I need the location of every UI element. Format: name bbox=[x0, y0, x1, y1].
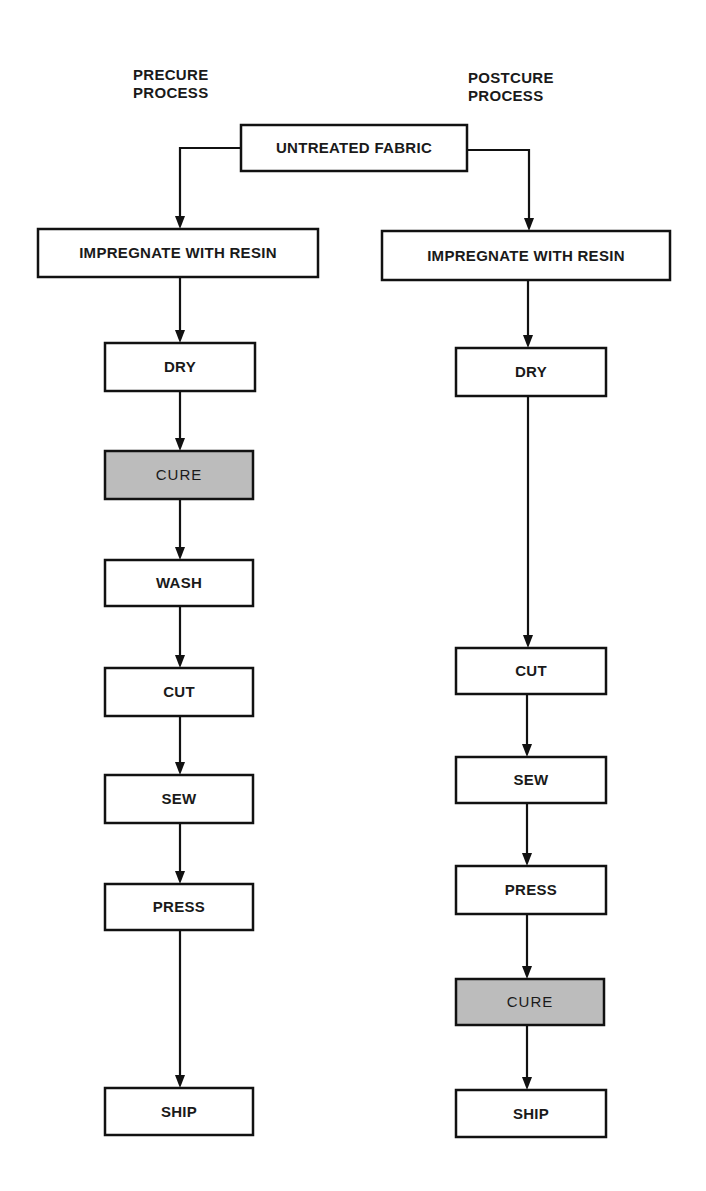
connector-r_dry-to-r_cut bbox=[523, 396, 533, 648]
arrow-down-icon bbox=[522, 1077, 532, 1090]
arrow-down-icon bbox=[175, 438, 185, 451]
arrow-down-icon bbox=[175, 871, 185, 884]
arrow-down-icon bbox=[523, 335, 533, 348]
connector-r_cure-to-r_ship bbox=[522, 1025, 532, 1090]
process-step-l-wash: WASH bbox=[105, 560, 253, 606]
step-label: IMPREGNATE WITH RESIN bbox=[79, 244, 277, 261]
connectors bbox=[175, 148, 534, 1090]
connector-r_sew-to-r_press bbox=[522, 803, 532, 866]
process-step-l-cut: CUT bbox=[105, 668, 253, 716]
step-label: UNTREATED FABRIC bbox=[276, 139, 432, 156]
connector-l_press-to-l_ship bbox=[175, 930, 185, 1088]
process-step-r-press: PRESS bbox=[456, 866, 606, 914]
process-step-untreated: UNTREATED FABRIC bbox=[241, 125, 467, 171]
arrow-down-icon bbox=[175, 1075, 185, 1088]
step-label: DRY bbox=[515, 363, 547, 380]
step-label: CURE bbox=[156, 466, 203, 483]
arrow-down-icon bbox=[175, 330, 185, 343]
step-label: SEW bbox=[161, 790, 197, 807]
connector-l_sew-to-l_press bbox=[175, 823, 185, 884]
step-label: SEW bbox=[513, 771, 549, 788]
step-label: CURE bbox=[507, 993, 554, 1010]
process-step-r-dry: DRY bbox=[456, 348, 606, 396]
connector-r_cut-to-r_sew bbox=[522, 694, 532, 757]
arrow-down-icon bbox=[175, 655, 185, 668]
arrow-down-icon bbox=[523, 635, 533, 648]
process-step-r-ship: SHIP bbox=[456, 1090, 606, 1137]
arrow-down-icon bbox=[522, 966, 532, 979]
process-flow-diagram: UNTREATED FABRICIMPREGNATE WITH RESINDRY… bbox=[0, 0, 706, 1191]
process-step-l-cure: CURE bbox=[105, 451, 253, 499]
connector-untreated-to-l_impregnate bbox=[175, 148, 241, 229]
step-label: CUT bbox=[163, 683, 195, 700]
connector-untreated-to-r_impregnate bbox=[467, 150, 534, 231]
arrow-down-icon bbox=[175, 762, 185, 775]
step-label: DRY bbox=[164, 358, 196, 375]
arrow-down-icon bbox=[175, 547, 185, 560]
step-label: IMPREGNATE WITH RESIN bbox=[427, 247, 625, 264]
connector-l_dry-to-l_cure bbox=[175, 391, 185, 451]
flowchart-canvas: PRECURE PROCESS POSTCURE PROCESS UNTREAT… bbox=[0, 0, 706, 1191]
connector-r_impregnate-to-r_dry bbox=[523, 280, 533, 348]
step-label: SHIP bbox=[513, 1105, 549, 1122]
process-step-r-cut: CUT bbox=[456, 648, 606, 694]
arrow-down-icon bbox=[175, 216, 185, 229]
step-label: CUT bbox=[515, 662, 547, 679]
process-step-r-impregnate: IMPREGNATE WITH RESIN bbox=[382, 231, 670, 280]
process-step-l-press: PRESS bbox=[105, 884, 253, 930]
process-step-l-sew: SEW bbox=[105, 775, 253, 823]
process-step-r-cure: CURE bbox=[456, 979, 604, 1025]
arrow-down-icon bbox=[522, 744, 532, 757]
process-step-l-impregnate: IMPREGNATE WITH RESIN bbox=[38, 229, 318, 277]
process-steps: UNTREATED FABRICIMPREGNATE WITH RESINDRY… bbox=[38, 125, 670, 1137]
connector-l_cure-to-l_wash bbox=[175, 499, 185, 560]
connector-r_press-to-r_cure bbox=[522, 914, 532, 979]
process-step-l-dry: DRY bbox=[105, 343, 255, 391]
step-label: PRESS bbox=[153, 898, 205, 915]
connector-l_cut-to-l_sew bbox=[175, 716, 185, 775]
step-label: PRESS bbox=[505, 881, 557, 898]
connector-l_impregnate-to-l_dry bbox=[175, 277, 185, 343]
process-step-l-ship: SHIP bbox=[105, 1088, 253, 1135]
arrow-down-icon bbox=[524, 218, 534, 231]
process-step-r-sew: SEW bbox=[456, 757, 606, 803]
step-label: SHIP bbox=[161, 1103, 197, 1120]
step-label: WASH bbox=[156, 574, 202, 591]
connector-l_wash-to-l_cut bbox=[175, 606, 185, 668]
arrow-down-icon bbox=[522, 853, 532, 866]
